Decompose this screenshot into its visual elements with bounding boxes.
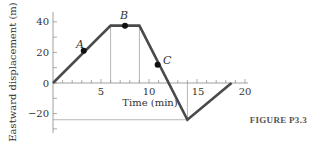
y-tick-label-40: 40 bbox=[36, 16, 49, 27]
point-label-c: C bbox=[163, 54, 172, 67]
y-tick-label-0: 0 bbox=[43, 78, 49, 89]
x-tick-label-20: 20 bbox=[239, 86, 252, 97]
y-tick-label-20: 20 bbox=[36, 47, 49, 58]
figure-caption: FIGURE P3.3 bbox=[250, 115, 307, 125]
x-tick-label-15: 15 bbox=[192, 86, 205, 97]
y-ticks bbox=[53, 22, 57, 129]
point-label-b: B bbox=[119, 9, 128, 22]
x-ticks bbox=[63, 79, 245, 83]
y-tick-label-neg20: −20 bbox=[28, 108, 49, 119]
x-tick-label-5: 5 bbox=[98, 86, 104, 97]
x-axis-label: Time (min) bbox=[122, 97, 177, 108]
point-label-a: A bbox=[75, 38, 84, 51]
chart: 5 10 15 20 40 20 0 −20 Time (min) Eastwa… bbox=[0, 0, 315, 153]
y-axis-label: Eastward displacement (m) bbox=[7, 2, 18, 142]
x-tick-label-10: 10 bbox=[143, 86, 156, 97]
